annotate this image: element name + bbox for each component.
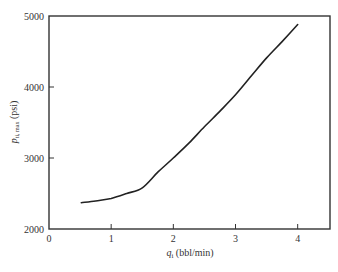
line-chart: 01234 2000300040005000 qi (bbl/min) pti,…: [0, 0, 338, 272]
plot-frame: [49, 16, 330, 229]
x-tick-label: 4: [295, 233, 300, 244]
x-tick-label: 1: [109, 233, 114, 244]
y-axis-label: pti, max (psi): [8, 101, 20, 145]
x-tick-label: 3: [233, 233, 238, 244]
x-axis-ticks: 01234: [47, 224, 301, 244]
y-tick-label: 3000: [24, 153, 44, 164]
data-series: [81, 25, 297, 203]
series-line: [81, 25, 297, 203]
x-tick-label: 0: [47, 233, 52, 244]
plot-border: [49, 16, 330, 229]
y-tick-label: 5000: [24, 11, 44, 22]
y-tick-label: 4000: [24, 82, 44, 93]
y-tick-label: 2000: [24, 224, 44, 235]
x-axis-label: qi (bbl/min): [166, 247, 213, 260]
x-tick-label: 2: [171, 233, 176, 244]
